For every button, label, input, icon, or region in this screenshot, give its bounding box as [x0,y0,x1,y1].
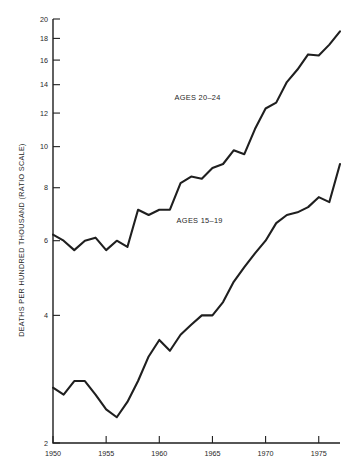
y-tick-20: 20 [40,15,60,24]
y-tick-label: 16 [40,56,48,65]
x-tick-1975: 1975 [311,436,327,458]
y-tick-label: 8 [44,183,48,192]
x-tick-1970: 1970 [258,436,274,458]
line-chart: DEATHS PER HUNDRED THOUSAND (RATIO SCALE… [0,0,357,473]
y-tick-18: 18 [40,34,60,43]
y-tick-10: 10 [40,142,60,151]
series-label-1: AGES 15–19 [177,216,223,225]
x-tick-1960: 1960 [151,436,167,458]
x-tick-1955: 1955 [98,436,114,458]
y-tick-label: 4 [44,311,48,320]
chart-figure: DEATHS PER HUNDRED THOUSAND (RATIO SCALE… [0,0,357,473]
y-tick-4: 4 [44,311,60,320]
y-tick-14: 14 [40,80,60,89]
x-tick-label: 1970 [258,449,274,458]
x-axis-ticks: 195019551960196519701975 [45,436,327,458]
x-tick-label: 1955 [98,449,114,458]
x-tick-1965: 1965 [204,436,220,458]
x-tick-label: 1965 [204,449,220,458]
y-tick-label: 10 [40,142,48,151]
y-tick-label: 14 [40,80,48,89]
y-tick-12: 12 [40,109,60,118]
y-axis-ticks: 2468101214161820 [40,15,60,448]
y-axis-title: DEATHS PER HUNDRED THOUSAND (RATIO SCALE… [17,143,26,337]
x-tick-label: 1950 [45,449,61,458]
series-annotations: AGES 20–24AGES 15–19 [174,93,222,225]
series-line-1 [53,164,340,417]
y-tick-8: 8 [44,183,60,192]
axis-lines [53,19,340,443]
y-tick-label: 12 [40,109,48,118]
y-axis-title-text: DEATHS PER HUNDRED THOUSAND (RATIO SCALE… [17,143,26,337]
y-tick-label: 18 [40,34,48,43]
y-tick-label: 20 [40,15,48,24]
y-tick-label: 2 [44,439,48,448]
series-label-0: AGES 20–24 [174,93,220,102]
y-tick-16: 16 [40,56,60,65]
y-tick-label: 6 [44,236,48,245]
x-tick-label: 1960 [151,449,167,458]
x-tick-label: 1975 [311,449,327,458]
